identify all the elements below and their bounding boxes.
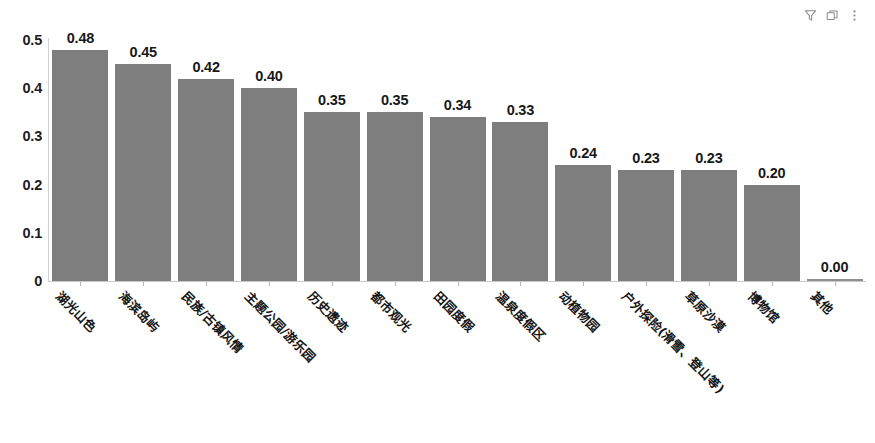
bar[interactable] — [115, 64, 171, 281]
bar[interactable] — [430, 117, 486, 281]
x-tick-mark — [458, 282, 459, 286]
bar-group[interactable]: 0.40 — [241, 40, 297, 281]
x-category-label: 湖光山色 — [53, 286, 102, 335]
bar-value-label: 0.24 — [547, 145, 619, 161]
bar[interactable] — [555, 165, 611, 281]
bar-value-label: 0.23 — [610, 150, 682, 166]
x-tick-mark — [332, 282, 333, 286]
y-tick-label: 0.5 — [0, 32, 42, 48]
x-tick-mark — [80, 282, 81, 286]
bar-value-label: 0.42 — [170, 59, 242, 75]
copy-icon[interactable] — [826, 9, 839, 22]
x-tick-mark — [583, 282, 584, 286]
x-category-label: 田园度假 — [430, 286, 479, 335]
x-category-label: 草原沙漠 — [681, 286, 730, 335]
bar-value-label: 0.45 — [107, 44, 179, 60]
bar[interactable] — [807, 279, 863, 281]
x-tick-mark — [395, 282, 396, 286]
x-tick-mark — [646, 282, 647, 286]
x-category-label: 民族/古镇风情 — [179, 286, 249, 356]
bar-group[interactable]: 0.34 — [430, 40, 486, 281]
y-tick-label: 0 — [0, 273, 42, 289]
bar[interactable] — [681, 170, 737, 281]
x-tick-mark — [206, 282, 207, 286]
bar[interactable] — [304, 112, 360, 281]
bar-value-label: 0.33 — [484, 102, 556, 118]
filter-icon[interactable] — [804, 9, 817, 22]
bar[interactable] — [618, 170, 674, 281]
bar-value-label: 0.34 — [422, 97, 494, 113]
bar[interactable] — [744, 185, 800, 281]
chart-toolbar — [804, 7, 861, 23]
bar-group[interactable]: 0.42 — [178, 40, 234, 281]
x-category-label: 博物馆 — [744, 286, 784, 326]
y-tick-label: 0.4 — [0, 80, 42, 96]
x-category-label: 其他 — [807, 286, 838, 317]
y-tick-label: 0.3 — [0, 128, 42, 144]
bar-value-label: 0.00 — [799, 259, 871, 275]
bar[interactable] — [367, 112, 423, 281]
x-axis-category-labels: 湖光山色海滨岛屿民族/古镇风情主题公园/游乐园历史遗迹都市观光田园度假温泉度假区… — [49, 286, 866, 436]
bar-value-label: 0.35 — [359, 92, 431, 108]
chart-card: 00.10.20.30.40.5 0.480.450.420.400.350.3… — [0, 0, 875, 443]
y-tick-label: 0.1 — [0, 225, 42, 241]
bar-group[interactable]: 0.33 — [492, 40, 548, 281]
bar[interactable] — [241, 88, 297, 281]
bar-group[interactable]: 0.23 — [681, 40, 737, 281]
bar[interactable] — [178, 79, 234, 281]
bar-value-label: 0.23 — [673, 150, 745, 166]
bar-series: 0.480.450.420.400.350.350.340.330.240.23… — [49, 40, 866, 281]
x-tick-mark — [520, 282, 521, 286]
bar-value-label: 0.20 — [736, 165, 808, 181]
x-tick-mark — [269, 282, 270, 286]
x-category-label: 温泉度假区 — [493, 286, 551, 344]
y-tick-label: 0.2 — [0, 177, 42, 193]
bar-group[interactable]: 0.24 — [555, 40, 611, 281]
bar-group[interactable]: 0.45 — [115, 40, 171, 281]
bar-value-label: 0.35 — [296, 92, 368, 108]
bar-value-label: 0.40 — [233, 68, 305, 84]
x-tick-mark — [772, 282, 773, 286]
y-axis-tick-labels: 00.10.20.30.40.5 — [0, 0, 42, 443]
x-category-label: 动植物园 — [556, 286, 605, 335]
bar-group[interactable]: 0.35 — [367, 40, 423, 281]
x-tick-mark — [709, 282, 710, 286]
x-category-label: 海滨岛屿 — [116, 286, 165, 335]
bar-value-label: 0.48 — [44, 30, 116, 46]
bar-group[interactable]: 0.00 — [807, 40, 863, 281]
x-tick-mark — [835, 282, 836, 286]
bar[interactable] — [52, 50, 108, 281]
bar-group[interactable]: 0.48 — [52, 40, 108, 281]
more-vertical-icon[interactable] — [848, 9, 861, 22]
x-category-label: 都市观光 — [367, 286, 416, 335]
plot-area: 0.480.450.420.400.350.350.340.330.240.23… — [49, 40, 866, 281]
bar[interactable] — [492, 122, 548, 281]
x-tick-mark — [143, 282, 144, 286]
bar-group[interactable]: 0.23 — [618, 40, 674, 281]
x-category-label: 户外探险(滑雪、登山等) — [619, 286, 730, 397]
x-category-label: 历史遗迹 — [304, 286, 353, 335]
bar-group[interactable]: 0.35 — [304, 40, 360, 281]
bar-group[interactable]: 0.20 — [744, 40, 800, 281]
